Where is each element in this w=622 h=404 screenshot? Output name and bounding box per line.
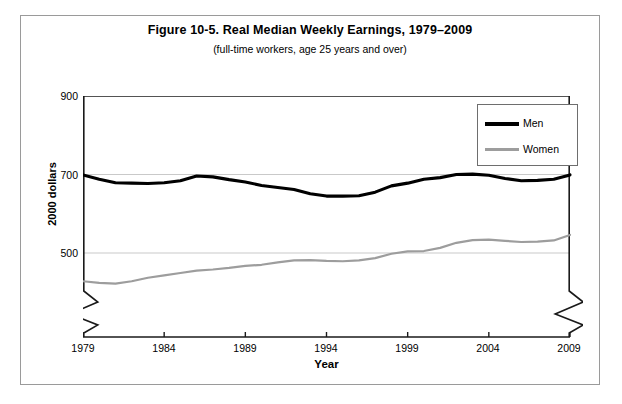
series-line-women bbox=[83, 235, 570, 284]
legend-label-women: Women bbox=[523, 144, 559, 155]
y-tick-label-700: 700 bbox=[38, 170, 78, 181]
y-tick-label-900: 900 bbox=[38, 91, 78, 102]
legend-swatch-men-icon bbox=[485, 122, 519, 126]
figure-title-block: Figure 10-5. Real Median Weekly Earnings… bbox=[20, 22, 600, 57]
chart-title: Figure 10-5. Real Median Weekly Earnings… bbox=[20, 22, 600, 38]
chart-subtitle: (full-time workers, age 25 years and ove… bbox=[20, 42, 600, 57]
x-axis-title: Year bbox=[83, 358, 570, 370]
series-line-men bbox=[83, 174, 570, 196]
legend-item-women: Women bbox=[485, 144, 559, 155]
y-axis-title: 2000 dollars bbox=[46, 134, 58, 254]
legend-swatch-women-icon bbox=[485, 148, 519, 151]
chart-legend: Men Women bbox=[477, 104, 578, 166]
legend-label-men: Men bbox=[523, 118, 543, 129]
legend-item-men: Men bbox=[485, 118, 543, 129]
y-tick-label-500: 500 bbox=[38, 248, 78, 259]
figure-root: Figure 10-5. Real Median Weekly Earnings… bbox=[0, 0, 622, 404]
